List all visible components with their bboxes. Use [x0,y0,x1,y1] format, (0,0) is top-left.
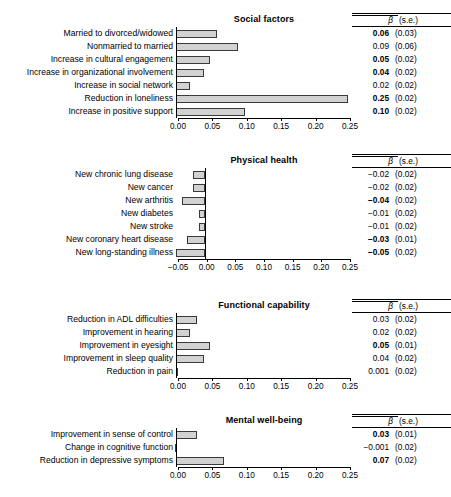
chart-row: Reduction in ADL difficulties0.03(0.02) [0,313,451,326]
bar [182,197,205,205]
se-value: (0.02) [394,194,447,207]
panel-title: Physical health [178,155,350,165]
panel-rows: New chronic lung disease−0.02(0.02)New c… [0,168,451,259]
stats-header: β(s.e.) [352,299,451,313]
row-stats: 0.05(0.02) [348,53,447,66]
bar [176,457,224,465]
beta-value: −0.05 [348,246,394,259]
zero-line [205,181,206,194]
beta-value: 0.03 [348,428,394,441]
row-stats: 0.001(0.02) [348,365,447,378]
category-label: Nonmarried to married [0,40,176,53]
bar [176,431,197,439]
axis-tick-label: 0.00 [163,471,193,480]
se-value: (0.06) [394,40,447,53]
se-value: (0.02) [394,352,447,365]
chart-row: New coronary heart disease−0.03(0.01) [0,233,451,246]
se-value: (0.02) [394,313,447,326]
zero-line [176,326,177,339]
row-stats: −0.001(0.02) [348,441,447,454]
row-stats: 0.25(0.02) [348,92,447,105]
panel-title: Social factors [178,14,350,24]
bar-track [176,313,348,326]
stats-header: β(s.e.) [352,154,451,168]
se-header: (s.e.) [398,156,451,166]
se-value: (0.02) [394,53,447,66]
chart-row: Increase in positive support0.10(0.02) [0,105,451,118]
bar-track [176,181,348,194]
category-label: Change in cognitive function [0,441,176,454]
se-value: (0.02) [394,246,447,259]
bar-track [176,92,348,105]
axis-tick-label: 0.05 [197,471,227,480]
beta-value: 0.06 [348,27,394,40]
bar-track [176,168,348,181]
row-stats: 0.02(0.02) [348,326,447,339]
chart-row: Reduction in pain0.001(0.02) [0,365,451,378]
row-stats: −0.04(0.02) [348,194,447,207]
zero-line [205,246,206,259]
row-stats: −0.01(0.02) [348,207,447,220]
category-label: New diabetes [0,207,176,220]
bar [176,108,245,116]
row-stats: 0.03(0.01) [348,428,447,441]
zero-line [176,105,177,118]
zero-line [205,233,206,246]
bar-track [176,53,348,66]
bar-track [176,454,348,467]
x-axis: 0.000.050.100.150.200.25 [178,118,350,132]
axis-tick-label: 0.15 [278,263,308,272]
panel-title: Functional capability [178,300,350,310]
beta-value: 0.001 [348,365,394,378]
bar [176,355,204,363]
beta-value: −0.001 [348,441,394,454]
zero-line [176,428,177,441]
zero-line [205,220,206,233]
se-value: (0.03) [394,27,447,40]
zero-line [176,352,177,365]
zero-line [205,168,206,181]
row-stats: −0.02(0.02) [348,181,447,194]
x-axis: −0.050.000.050.100.150.200.25 [178,259,350,273]
beta-header: β [352,301,398,311]
bar-track [176,326,348,339]
se-value: (0.02) [394,441,447,454]
bar [176,30,217,38]
bar [193,171,204,179]
zero-line [176,92,177,105]
beta-value: 0.10 [348,105,394,118]
beta-value: 0.02 [348,326,394,339]
chart-row: Reduction in depressive symptoms0.07(0.0… [0,454,451,467]
axis-tick-label: 0.25 [335,471,365,480]
category-label: Improvement in hearing [0,326,176,339]
category-label: Reduction in loneliness [0,92,176,105]
axis-tick-label: 0.15 [266,471,296,480]
bar [176,56,210,64]
row-stats: −0.02(0.02) [348,168,447,181]
beta-value: 0.25 [348,92,394,105]
axis-tick-label: 0.25 [335,263,365,272]
zero-line [176,454,177,467]
beta-header: β [352,15,398,25]
zero-line [176,40,177,53]
row-stats: 0.03(0.02) [348,313,447,326]
bar-track [176,194,348,207]
axis-tick-label: 0.05 [220,263,250,272]
chart-row: Increase in organizational involvement0.… [0,66,451,79]
chart-row: Reduction in loneliness0.25(0.02) [0,92,451,105]
axis-tick-label: 0.25 [335,122,365,131]
se-value: (0.02) [394,92,447,105]
row-stats: 0.07(0.02) [348,454,447,467]
se-value: (0.02) [394,454,447,467]
chart-row: Nonmarried to married0.09(0.06) [0,40,451,53]
category-label: New cancer [0,181,176,194]
beta-value: −0.02 [348,168,394,181]
beta-header: β [352,416,398,426]
bar-track [176,105,348,118]
row-stats: 0.06(0.03) [348,27,447,40]
axis-tick-label: 0.15 [266,122,296,131]
bar-track [176,441,348,454]
se-header: (s.e.) [398,15,451,25]
zero-line [205,194,206,207]
zero-line [205,207,206,220]
